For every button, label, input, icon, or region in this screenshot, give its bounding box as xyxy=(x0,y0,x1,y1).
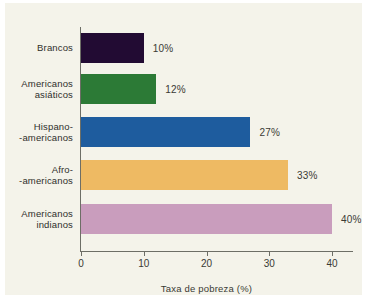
category-axis-labels: Brancos Americanos asiáticos Hispano- -a… xyxy=(5,27,73,251)
bar-brancos xyxy=(81,33,144,63)
bar-afro-americanos xyxy=(81,160,288,190)
x-axis-line xyxy=(80,251,353,252)
bar-hispano-americanos xyxy=(81,117,250,147)
category-label-americanos-asiaticos: Americanos asiáticos xyxy=(5,74,73,104)
bar-americanos-indianos xyxy=(81,204,332,234)
bar-value-label: 12% xyxy=(165,84,186,95)
tick-label: 30 xyxy=(264,258,275,269)
x-axis-title: Taxa de pobreza (%) xyxy=(81,283,332,294)
category-label-text: Americanos asiáticos xyxy=(5,78,73,101)
bar-value-label: 27% xyxy=(259,127,280,138)
chart-figure: Brancos Americanos asiáticos Hispano- -a… xyxy=(0,0,373,303)
tick-label: 10 xyxy=(138,258,149,269)
bar-value-label: 40% xyxy=(341,214,362,225)
tick-mark xyxy=(332,251,333,256)
tick-mark xyxy=(207,251,208,256)
category-label-brancos: Brancos xyxy=(5,33,73,63)
tick-mark xyxy=(81,251,82,256)
tick-mark xyxy=(269,251,270,256)
bar-value-label: 33% xyxy=(297,170,318,181)
bar-americanos-asiaticos xyxy=(81,74,156,104)
category-label-hispano-americanos: Hispano- -americanos xyxy=(5,117,73,147)
category-label-text: Brancos xyxy=(5,42,73,54)
tick-mark xyxy=(144,251,145,256)
tick-label: 40 xyxy=(326,258,337,269)
bar-value-label: 10% xyxy=(153,43,174,54)
category-label-afro-americanos: Afro- -americanos xyxy=(5,160,73,190)
chart-plate: Brancos Americanos asiáticos Hispano- -a… xyxy=(5,3,362,295)
tick-label: 20 xyxy=(201,258,212,269)
category-label-text: Afro- -americanos xyxy=(5,164,73,187)
category-label-americanos-indianos: Americanos indianos xyxy=(5,204,73,234)
plot-area: Brancos Americanos asiáticos Hispano- -a… xyxy=(81,27,332,251)
tick-label: 0 xyxy=(78,258,84,269)
category-label-text: Americanos indianos xyxy=(5,208,73,231)
category-label-text: Hispano- -americanos xyxy=(5,121,73,144)
